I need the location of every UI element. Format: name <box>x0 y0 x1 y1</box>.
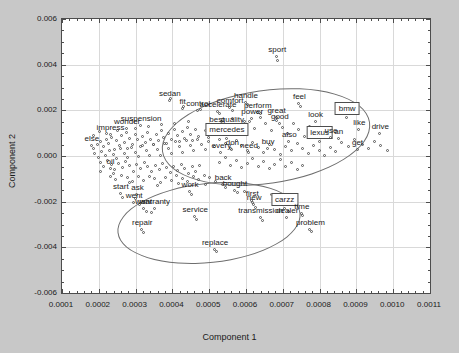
y-axis-tick <box>62 247 66 248</box>
scatter-point <box>198 164 201 167</box>
y-tick-label: 0.000 <box>19 151 57 160</box>
scatter-point <box>126 147 129 150</box>
x-axis-minor-tick <box>349 19 350 21</box>
scatter-point <box>218 138 221 141</box>
x-axis-minor-tick <box>408 291 409 293</box>
scatter-point <box>97 156 100 159</box>
y-axis-minor-tick <box>428 190 430 191</box>
scatter-point-labeled <box>345 116 348 119</box>
scatter-point <box>142 231 145 234</box>
scatter-point <box>126 156 129 159</box>
y-axis-minor-tick <box>62 133 64 134</box>
scatter-point-labeled <box>125 127 128 130</box>
x-axis-minor-tick <box>253 291 254 293</box>
scatter-point <box>189 133 192 136</box>
scatter-point <box>164 176 167 179</box>
x-axis-minor-tick <box>180 291 181 293</box>
scatter-point <box>148 154 151 157</box>
x-axis-minor-tick <box>386 19 387 21</box>
point-label-buy: buy <box>262 137 275 146</box>
scatter-point <box>229 164 232 167</box>
x-axis-minor-tick <box>128 291 129 293</box>
x-axis-minor-tick <box>121 291 122 293</box>
x-tick-label: 0.0007 <box>270 300 294 309</box>
y-axis-minor-tick <box>428 282 430 283</box>
scatter-point <box>146 131 149 134</box>
x-axis-minor-tick <box>261 19 262 21</box>
x-axis-minor-tick <box>194 291 195 293</box>
x-tick-label: 0.0002 <box>86 300 110 309</box>
scatter-point <box>153 177 156 180</box>
scatter-point <box>100 150 103 153</box>
scatter-point <box>139 167 142 170</box>
y-tick-label: -0.006 <box>19 288 57 297</box>
y-axis-minor-tick <box>428 53 430 54</box>
x-axis-minor-tick <box>114 19 115 21</box>
y-axis-minor-tick <box>62 76 64 77</box>
x-axis-tick <box>320 289 321 293</box>
x-axis-minor-tick <box>106 291 107 293</box>
x-axis-minor-tick <box>180 19 181 21</box>
x-axis-tick <box>393 19 394 23</box>
scatter-point-labeled <box>275 55 278 58</box>
scatter-point <box>160 129 163 132</box>
scatter-point <box>176 169 179 172</box>
scatter-point <box>157 139 160 142</box>
scatter-point <box>167 147 170 150</box>
x-axis-minor-tick <box>290 19 291 21</box>
y-axis-minor-tick <box>428 259 430 260</box>
y-axis-tick <box>62 156 66 157</box>
figure-canvas: sportsedanfitcontrolhandlecomfortacceler… <box>0 0 459 353</box>
x-axis-minor-tick <box>275 19 276 21</box>
scatter-point <box>203 174 206 177</box>
scatter-point <box>144 141 147 144</box>
y-tick-label: 0.002 <box>19 105 57 114</box>
scatter-point <box>131 180 134 183</box>
scatter-point <box>323 154 326 157</box>
x-axis-minor-tick <box>158 291 159 293</box>
point-label-service: service <box>183 205 208 214</box>
x-axis-minor-tick <box>165 19 166 21</box>
x-axis-minor-tick <box>305 291 306 293</box>
y-axis-minor-tick <box>428 145 430 146</box>
x-axis-minor-tick <box>77 291 78 293</box>
scatter-point <box>107 142 110 145</box>
x-axis-minor-tick <box>371 291 372 293</box>
scatter-point <box>120 174 123 177</box>
scatter-point <box>281 126 284 129</box>
x-axis-minor-tick <box>128 19 129 21</box>
x-axis-tick <box>356 289 357 293</box>
x-axis-minor-tick <box>290 291 291 293</box>
scatter-point-labeled <box>213 248 216 251</box>
scatter-point <box>126 176 129 179</box>
y-axis-minor-tick <box>428 42 430 43</box>
point-label-repair: repair <box>132 218 152 227</box>
scatter-point <box>194 170 197 173</box>
scatter-point-labeled <box>181 107 184 110</box>
scatter-point <box>137 155 140 158</box>
scatter-point <box>259 116 262 119</box>
scatter-point <box>177 182 180 185</box>
scatter-point <box>109 175 112 178</box>
x-axis-minor-tick <box>378 19 379 21</box>
point-label-impress: impress <box>97 123 125 132</box>
scatter-point <box>132 170 135 173</box>
scatter-point <box>347 145 350 148</box>
scatter-point-labeled <box>278 122 281 125</box>
x-axis-tick <box>393 289 394 293</box>
scatter-point <box>156 184 159 187</box>
y-axis-tick <box>426 19 430 20</box>
x-axis-minor-tick <box>386 291 387 293</box>
point-label-also: also <box>282 130 297 139</box>
scatter-point <box>148 175 151 178</box>
x-axis-minor-tick <box>217 19 218 21</box>
scatter-point <box>123 152 126 155</box>
x-axis-minor-tick <box>69 291 70 293</box>
x-axis-minor-tick <box>158 19 159 21</box>
x-axis-minor-tick <box>342 291 343 293</box>
x-axis-minor-tick <box>217 291 218 293</box>
scatter-point <box>152 143 155 146</box>
scatter-point <box>128 164 131 167</box>
scatter-point <box>123 141 126 144</box>
x-axis-tick <box>246 289 247 293</box>
